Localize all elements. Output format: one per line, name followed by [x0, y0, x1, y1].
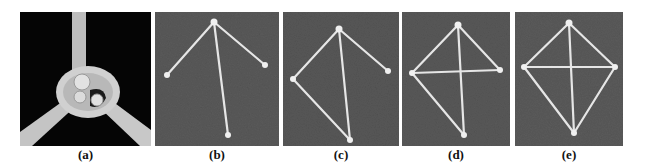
stick-frame-d	[402, 12, 510, 146]
panel-e-label: (e)	[515, 147, 623, 163]
stick-frame-e	[515, 12, 623, 146]
stick-frame-c	[283, 12, 399, 146]
panel-c-label: (c)	[283, 147, 399, 163]
panel-b-label: (b)	[155, 147, 279, 163]
panel-a-label: (a)	[20, 147, 151, 163]
panel-c-left-connected	[283, 12, 399, 146]
panel-d-crossbar	[402, 12, 510, 146]
panel-a-knot-closeup	[20, 12, 151, 146]
panel-b-three-sticks	[155, 12, 279, 146]
knot-joint-image	[20, 12, 151, 146]
panel-e-kite-frame	[515, 12, 623, 146]
stick-frame-b	[155, 12, 279, 146]
panel-d-label: (d)	[402, 147, 510, 163]
